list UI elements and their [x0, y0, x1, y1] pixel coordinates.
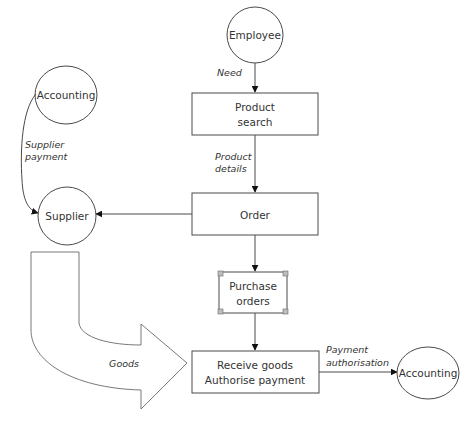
node-accounting-bottom: Accounting: [397, 347, 459, 399]
node-employee: Employee: [227, 7, 283, 63]
product-details-line1: Product: [215, 151, 253, 162]
purchase-orders-line2: orders: [236, 295, 269, 307]
node-product-search: Product search: [192, 93, 318, 135]
goods-label: Goods: [109, 358, 139, 369]
supplier-label: Supplier: [45, 210, 89, 222]
order-label: Order: [240, 209, 271, 221]
edge-payment-authorisation: Payment authorisation: [319, 344, 397, 372]
corner-marker: [218, 271, 223, 276]
corner-marker: [283, 271, 288, 276]
goods-block-arrow: Goods: [31, 252, 187, 409]
payment-authorisation-line1: Payment: [326, 344, 369, 355]
payment-authorisation-line2: authorisation: [326, 357, 389, 368]
edge-need: Need: [217, 63, 255, 92]
node-accounting-top: Accounting: [35, 66, 97, 124]
corner-marker: [218, 309, 223, 314]
product-search-line2: search: [238, 116, 273, 128]
purchase-orders-line1: Purchase: [229, 280, 277, 292]
node-purchase-orders: Purchase orders: [218, 271, 288, 314]
employee-label: Employee: [229, 29, 281, 41]
accounting-bottom-label: Accounting: [399, 367, 458, 379]
node-receive-goods: Receive goods Authorise payment: [192, 351, 319, 393]
node-supplier: Supplier: [38, 187, 96, 245]
product-search-line1: Product: [235, 101, 275, 113]
edge-product-details: Product details: [215, 135, 255, 192]
node-order: Order: [192, 193, 318, 235]
supplier-payment-line2: payment: [24, 151, 69, 162]
supplier-payment-line1: Supplier: [25, 139, 65, 150]
product-details-line2: details: [215, 163, 247, 174]
receive-goods-line1: Receive goods: [217, 359, 293, 371]
receive-goods-line2: Authorise payment: [205, 374, 305, 386]
accounting-top-label: Accounting: [37, 89, 96, 101]
flow-diagram: Goods Employee Need Product search Produ…: [0, 0, 475, 421]
corner-marker: [283, 309, 288, 314]
need-label: Need: [217, 67, 243, 78]
